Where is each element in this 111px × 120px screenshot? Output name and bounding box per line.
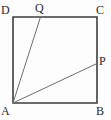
- vertex-label-a: A: [1, 105, 10, 117]
- segment-ap: [13, 64, 97, 104]
- vertex-label-d: D: [1, 4, 10, 16]
- segments-group: [13, 17, 97, 103]
- segment-aq: [13, 17, 41, 103]
- square-abcd: [13, 17, 97, 103]
- vertex-label-p: P: [99, 55, 106, 67]
- vertex-label-c: C: [96, 4, 104, 16]
- geometry-figure: D Q C P A B: [0, 0, 111, 120]
- square-outline: [13, 17, 97, 103]
- vertex-label-b: B: [96, 105, 104, 117]
- figure-canvas: [0, 0, 111, 120]
- vertex-label-q: Q: [35, 2, 44, 14]
